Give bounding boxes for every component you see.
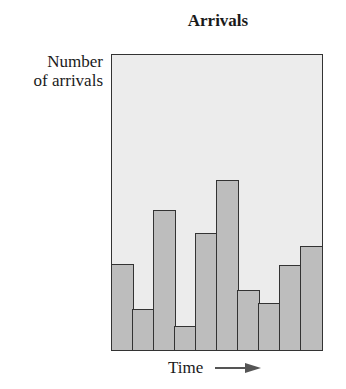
chart-title: Arrivals — [0, 11, 346, 31]
right-arrow-icon — [215, 363, 261, 373]
bar — [279, 265, 302, 350]
y-axis-label: Number of arrivals — [34, 52, 103, 90]
x-axis-label: Time — [168, 358, 203, 378]
bar — [258, 303, 281, 350]
bar — [237, 290, 260, 350]
plot-area — [111, 54, 323, 351]
bar — [132, 309, 155, 350]
bar — [174, 326, 197, 350]
bar-series — [112, 55, 322, 350]
y-axis-label-line-1: Number — [34, 52, 103, 71]
bar — [300, 246, 322, 350]
bar — [112, 264, 134, 350]
bar — [195, 233, 218, 350]
y-axis-label-line-2: of arrivals — [34, 71, 103, 90]
bar — [216, 180, 239, 350]
bar — [153, 210, 176, 350]
x-axis-label-group: Time — [168, 358, 261, 378]
